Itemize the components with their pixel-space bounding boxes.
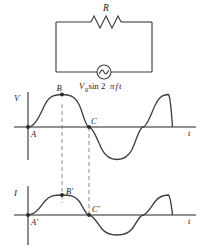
current-t-axis-label: t — [188, 216, 191, 226]
resistor-zigzag-icon — [91, 16, 121, 28]
current-graph: I A′ B′ C′ t — [13, 186, 196, 245]
voltage-point-A-marker — [26, 125, 30, 129]
current-point-Cprime-marker — [87, 213, 91, 217]
voltage-point-B-label: B — [56, 83, 61, 93]
current-point-Aprime-label: A′ — [30, 217, 38, 227]
voltage-graph: V A B C t — [14, 83, 196, 160]
current-point-Bprime-label: B′ — [66, 186, 73, 196]
current-point-Bprime-marker — [60, 193, 64, 197]
voltage-t-axis-label: t — [188, 128, 191, 138]
voltage-point-A-label: A — [30, 129, 37, 139]
ac-circuit-figure: R V 0 sin 2 π f t V A B C t — [0, 0, 205, 251]
source-label: V 0 sin 2 π f t — [79, 81, 122, 93]
source-label-sin: sin 2 — [89, 81, 106, 91]
source-label-pi: π — [110, 81, 115, 91]
current-point-Aprime-marker — [26, 213, 30, 217]
circuit-diagram: R V 0 sin 2 π f t — [56, 3, 152, 93]
voltage-point-B-marker — [60, 93, 64, 97]
current-y-axis-label: I — [13, 188, 18, 198]
current-point-Cprime-label: C′ — [92, 204, 100, 214]
voltage-y-axis-label: V — [14, 93, 21, 103]
source-label-t: t — [119, 81, 122, 91]
voltage-point-C-label: C — [91, 116, 97, 126]
resistor-label: R — [102, 3, 109, 13]
